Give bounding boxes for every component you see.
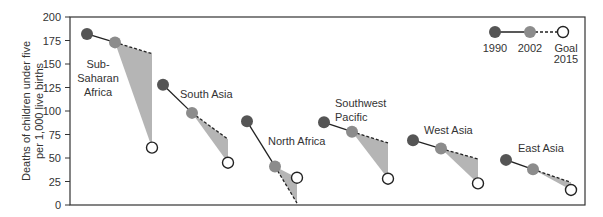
y-tick-label: 150 — [43, 58, 61, 70]
marker-1990 — [241, 115, 253, 127]
legend-marker-1990 — [489, 26, 501, 38]
region-label: North Africa — [268, 135, 326, 147]
marker-goal-2015 — [473, 178, 484, 189]
y-tick-label: 125 — [43, 82, 61, 94]
legend-label-goal: 2015 — [554, 53, 578, 65]
marker-goal-2015 — [292, 172, 303, 183]
marker-goal-2015 — [566, 184, 577, 195]
marker-1990 — [407, 134, 419, 146]
y-tick-label: 175 — [43, 35, 61, 47]
gap-shade — [352, 132, 388, 179]
chart-svg: 0255075100125150175200Deaths of children… — [0, 0, 603, 217]
region-label: East Asia — [518, 142, 565, 154]
region-label: Saharan — [77, 72, 119, 84]
y-tick-label: 50 — [49, 152, 61, 164]
marker-goal-2015 — [147, 142, 158, 153]
marker-goal-2015 — [223, 157, 234, 168]
y-tick-label: 75 — [49, 129, 61, 141]
marker-2002 — [269, 160, 281, 172]
region-label: South Asia — [180, 88, 233, 100]
gap-shade — [533, 169, 571, 190]
gap-shade — [441, 149, 478, 184]
marker-1990 — [318, 116, 330, 128]
y-tick-label: 0 — [55, 199, 61, 211]
y-tick-label: 25 — [49, 176, 61, 188]
gap-shade — [192, 113, 228, 163]
y-axis-label: per 1,000 live births — [33, 63, 45, 159]
marker-2002 — [346, 126, 358, 138]
marker-1990 — [500, 154, 512, 166]
marker-1990 — [81, 28, 93, 40]
y-tick-label: 200 — [43, 11, 61, 23]
marker-2002 — [186, 107, 198, 119]
marker-1990 — [157, 79, 169, 91]
region-label: Sub- — [86, 58, 110, 70]
chart: 0255075100125150175200Deaths of children… — [0, 0, 603, 217]
legend-marker-2002 — [524, 26, 536, 38]
y-tick-label: 100 — [43, 105, 61, 117]
region-label: Pacific — [335, 111, 368, 123]
marker-2002 — [527, 163, 539, 175]
legend-marker-goal — [558, 27, 569, 38]
marker-goal-2015 — [383, 173, 394, 184]
marker-2002 — [435, 143, 447, 155]
region-label: West Asia — [424, 124, 474, 136]
y-axis-label: Deaths of children under five — [20, 41, 32, 181]
marker-2002 — [109, 36, 121, 48]
region-label: Southwest — [335, 97, 386, 109]
gap-shade — [115, 42, 152, 147]
legend-label-2002: 2002 — [518, 42, 542, 54]
legend-label-1990: 1990 — [483, 42, 507, 54]
region-label: Africa — [84, 86, 113, 98]
